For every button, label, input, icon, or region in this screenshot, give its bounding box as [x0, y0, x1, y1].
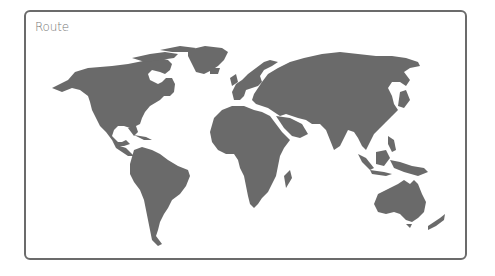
- route-card: Route: [24, 10, 467, 260]
- card-title: Route: [35, 20, 69, 34]
